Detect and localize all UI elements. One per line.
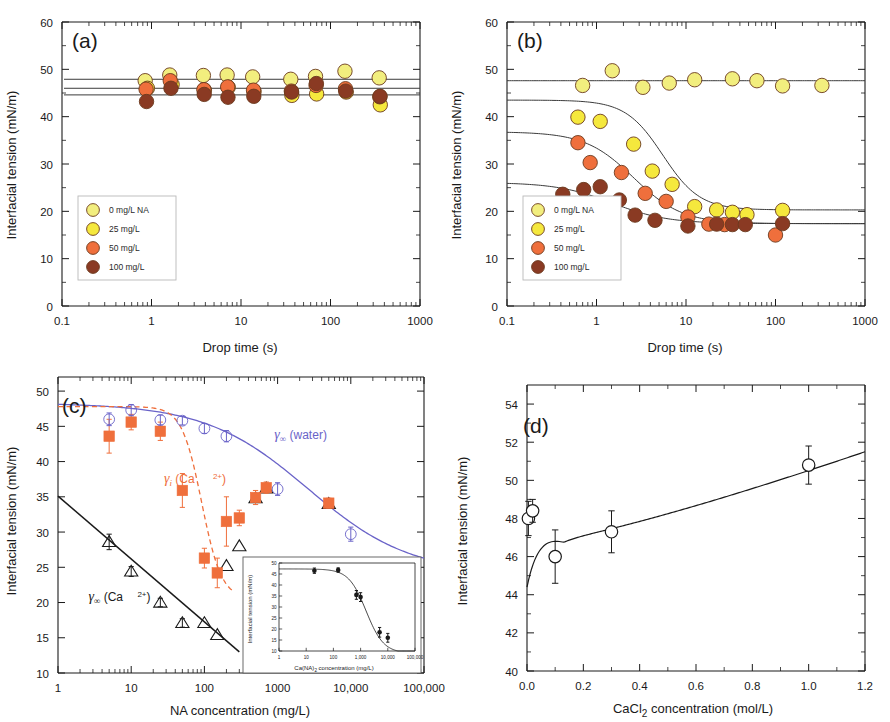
x-axis-tick-label: 100	[766, 315, 785, 327]
panel-d-axes: 0.00.20.40.60.81.01.24042444648505254	[505, 385, 873, 692]
y-axis-tick-label: 20	[40, 206, 53, 218]
x-axis-tick-label: 1.2	[857, 680, 873, 692]
data-point	[687, 73, 701, 87]
x-axis-tick-label: 1	[55, 682, 61, 694]
data-point	[605, 526, 617, 538]
data-point	[775, 203, 789, 217]
data-point	[139, 94, 153, 108]
series-0-mg-l-na	[575, 64, 829, 95]
inset-x-tick-label: 10	[304, 655, 310, 660]
data-point	[636, 80, 650, 94]
data-point	[709, 217, 723, 231]
y-axis-tick-label: 30	[36, 527, 49, 539]
panel-b-svg: 0.111010010000102030405060 (b) Drop time…	[445, 0, 890, 361]
inset-y-tick-label: 15	[271, 638, 277, 643]
data-point	[662, 76, 676, 90]
legend-label: 100 mg/L	[554, 262, 590, 272]
data-point	[324, 498, 335, 509]
panel-b-yaxis-label: Interfacial tension (mN/m)	[449, 91, 464, 240]
y-axis-tick-label: 10	[40, 253, 53, 265]
data-point	[577, 182, 591, 196]
data-point	[245, 70, 259, 84]
inset-x-tick-label: 1,000	[355, 655, 367, 660]
panel-a-xaxis-label: Drop time (s)	[202, 340, 277, 355]
y-axis-tick-label: 20	[485, 206, 498, 218]
inset-x-tick-label: 10,000	[381, 655, 395, 660]
x-axis-tick-label: 100	[321, 315, 340, 327]
data-point	[234, 513, 245, 524]
data-point	[775, 216, 789, 230]
panel-d-fit-curve	[527, 452, 865, 587]
inset-y-tick-label: 25	[271, 616, 277, 621]
x-axis-tick-label: 0.4	[632, 680, 649, 692]
legend-swatch-3	[532, 261, 545, 274]
data-point	[709, 203, 723, 217]
inset-x-tick-label: 100	[330, 655, 338, 660]
inset-y-tick-label: 30	[271, 605, 277, 610]
legend-swatch-2	[87, 242, 100, 255]
x-axis-tick-label: 1000	[852, 315, 878, 327]
y-axis-tick-label: 35	[36, 491, 49, 503]
legend-swatch-3	[87, 261, 100, 274]
y-axis-tick-label: 40	[36, 456, 49, 468]
inset-data-point	[354, 593, 359, 598]
legend-swatch-1	[87, 223, 100, 236]
data-point	[250, 492, 261, 503]
figure-root: 0.111010010000102030405060 (a) Drop time…	[0, 0, 890, 722]
y-axis-tick-label: 0	[47, 301, 53, 313]
data-point	[750, 73, 764, 87]
x-axis-tick-label: 100,000	[403, 682, 445, 694]
legend-label: 0 mg/L NA	[554, 205, 594, 215]
data-point	[233, 540, 246, 551]
data-point	[372, 71, 386, 85]
y-axis-tick-label: 52	[505, 437, 518, 449]
data-point	[614, 165, 628, 179]
panel-a-fit-lines	[64, 79, 420, 95]
data-point	[645, 164, 659, 178]
y-axis-tick-label: 50	[40, 64, 53, 76]
data-point	[638, 186, 652, 200]
inset-x-tick-label: 1	[278, 655, 281, 660]
inset-y-tick-label: 20	[271, 627, 277, 632]
inset-y-tick-label: 40	[271, 583, 277, 588]
panel-a-yaxis-label: Interfacial tension (mN/m)	[4, 91, 19, 240]
data-point	[605, 64, 619, 78]
panel-c-inset-chart: 1101001,00010,000100,0001015202530354045…	[243, 557, 424, 673]
y-axis-tick-label: 20	[36, 597, 49, 609]
y-axis-tick-label: 60	[485, 17, 498, 29]
x-axis-tick-label: 100	[195, 682, 214, 694]
x-axis-tick-label: 1000	[407, 315, 433, 327]
data-point	[648, 213, 662, 227]
data-point	[261, 482, 272, 493]
panel-d: 0.00.20.40.60.81.01.24042444648505254 (d…	[445, 361, 890, 722]
x-axis-tick-label: 0.1	[54, 315, 70, 327]
data-point	[775, 79, 789, 93]
panel-c-tag: (c)	[62, 394, 87, 417]
data-point	[155, 426, 166, 437]
y-axis-tick-label: 54	[505, 399, 518, 411]
data-point	[339, 84, 353, 98]
water-fit-curve	[58, 404, 424, 558]
inset-y-tick-label: 35	[271, 594, 277, 599]
inset-data-point	[386, 636, 391, 641]
legend-label: 25 mg/L	[554, 224, 585, 234]
panel-a: 0.111010010000102030405060 (a) Drop time…	[0, 0, 445, 361]
data-point	[571, 136, 585, 150]
data-point	[593, 114, 607, 128]
data-point	[247, 89, 261, 103]
y-axis-tick-label: 45	[36, 421, 49, 433]
x-axis-tick-label: 10	[680, 315, 693, 327]
x-axis-tick-label: 0.6	[688, 680, 704, 692]
panel-d-tag: (d)	[523, 414, 549, 437]
panel-a-svg: 0.111010010000102030405060 (a) Drop time…	[0, 0, 445, 361]
y-axis-tick-label: 50	[485, 64, 498, 76]
annotation-gamma-i-ca-text: γi (Ca	[164, 471, 195, 488]
y-axis-tick-label: 42	[505, 627, 518, 639]
data-point	[221, 516, 232, 527]
y-axis-tick-label: 60	[40, 17, 53, 29]
data-point	[593, 180, 607, 194]
x-axis-tick-label: 0.0	[519, 680, 535, 692]
y-axis-tick-label: 50	[36, 386, 49, 398]
inset-x-tick-label: 100,000	[407, 655, 424, 660]
annotation-gamma-i-ca-sup: 2+)	[213, 472, 226, 486]
